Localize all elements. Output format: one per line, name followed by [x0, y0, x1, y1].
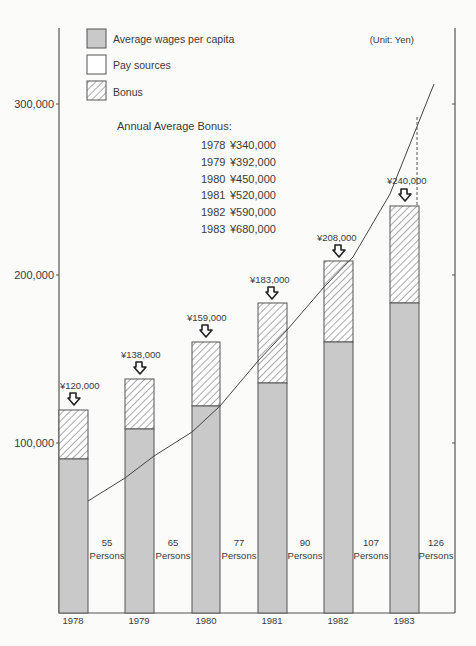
down-arrow-icon: [399, 189, 411, 201]
total-label-1980: ¥159,000: [186, 312, 227, 323]
ytick-200000: 200,000: [14, 269, 54, 281]
xtick-1982: 1982: [327, 615, 348, 626]
persons-count: 107: [363, 537, 379, 548]
down-arrow-icon: [200, 325, 212, 337]
down-arrow-icon: [333, 245, 345, 257]
annotation-value: ¥520,000: [229, 189, 276, 201]
total-label-1983: ¥240,000: [386, 175, 427, 186]
bar-bonus-1981: [258, 303, 287, 383]
total-label-1979: ¥138,000: [120, 349, 161, 360]
xtick-1980: 1980: [195, 615, 216, 626]
legend-swatch-wages: [87, 29, 106, 48]
persons-count: 77: [234, 537, 245, 548]
legend: Average wages per capita Pay sources Bon…: [87, 29, 234, 100]
bar-bonus-1980: [192, 342, 220, 406]
down-arrow-icon: [68, 393, 80, 405]
persons-count: 126: [428, 537, 444, 548]
bar-bonus-1978: [59, 410, 88, 459]
annotation-title: Annual Average Bonus:: [117, 120, 232, 132]
down-arrow-icon: [266, 287, 278, 299]
xtick-1979: 1979: [128, 615, 149, 626]
annotation-year: 1981: [201, 189, 225, 201]
bar-wages-1983: [390, 303, 419, 613]
annotation-year: 1978: [201, 139, 225, 151]
persons-unit: Persons: [156, 550, 191, 561]
persons-unit: Persons: [354, 550, 389, 561]
x-labels: 1978 1979 1980 1981 1982 1983: [62, 615, 414, 626]
annual-bonus-annotation: Annual Average Bonus: 1978 ¥340,000 1979…: [117, 120, 276, 235]
total-label-1978: ¥120,000: [59, 380, 100, 391]
annotation-value: ¥340,000: [229, 139, 276, 151]
annotation-year: 1983: [201, 223, 225, 235]
legend-label-pay-sources: Pay sources: [113, 59, 171, 71]
persons-unit: Persons: [222, 550, 257, 561]
bar-wages-1980: [192, 406, 220, 613]
annotation-year: 1980: [201, 173, 225, 185]
persons-count: 55: [102, 537, 113, 548]
persons-count: 65: [168, 537, 179, 548]
total-label-1982: ¥208,000: [316, 232, 357, 243]
ytick-100000: 100,000: [14, 437, 54, 449]
annotation-year: 1979: [201, 156, 225, 168]
bar-wages-1978: [59, 459, 88, 613]
annotation-value: ¥392,000: [229, 156, 276, 168]
persons-unit: Persons: [419, 550, 454, 561]
unit-note: (Unit: Yen): [370, 34, 414, 45]
legend-swatch-bonus: [87, 81, 106, 100]
legend-label-wages: Average wages per capita: [113, 33, 234, 45]
xtick-1983: 1983: [393, 615, 414, 626]
annotation-value: ¥450,000: [229, 173, 276, 185]
annotation-value: ¥590,000: [229, 206, 276, 218]
total-label-1981: ¥183,000: [249, 274, 290, 285]
annotation-value: ¥680,000: [229, 223, 276, 235]
xtick-1978: 1978: [62, 615, 83, 626]
legend-label-bonus: Bonus: [113, 86, 143, 98]
persons-count: 90: [300, 537, 311, 548]
legend-swatch-pay-sources: [87, 55, 106, 74]
bar-wages-1982: [324, 342, 353, 613]
bar-bonus-1982: [324, 261, 353, 342]
bar-bonus-1983: [390, 206, 419, 303]
ytick-300000: 300,000: [14, 98, 54, 110]
xtick-1981: 1981: [261, 615, 282, 626]
chart-svg: 300,000 200,000 100,000 Average wages pe…: [0, 0, 476, 646]
bar-bonus-1979: [125, 379, 154, 429]
persons-unit: Persons: [90, 550, 125, 561]
annotation-year: 1982: [201, 206, 225, 218]
persons-unit: Persons: [288, 550, 323, 561]
down-arrow-icon: [134, 362, 146, 374]
bar-wages-1981: [258, 383, 287, 613]
bar-wages-1979: [125, 429, 154, 613]
down-arrow-icons: [68, 189, 411, 405]
